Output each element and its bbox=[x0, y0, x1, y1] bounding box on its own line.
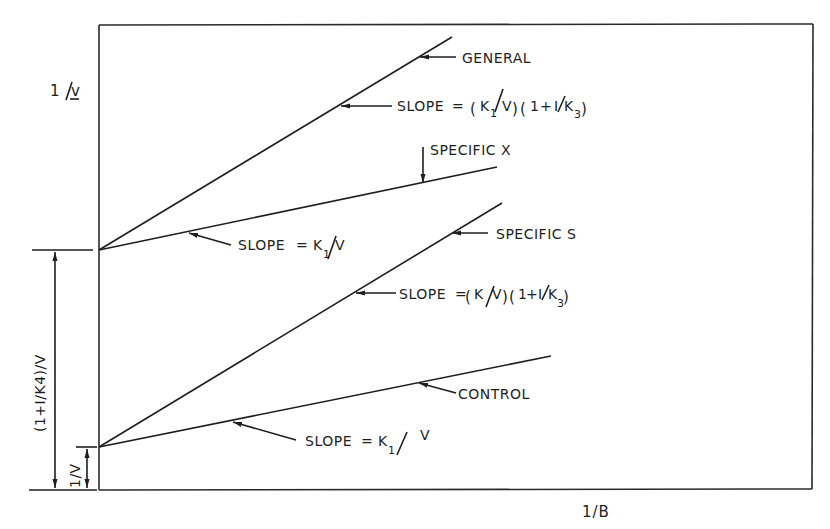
specific-x-slope-eq: = bbox=[296, 237, 308, 253]
label-control-slope: SLOPE = K 1 V bbox=[233, 422, 430, 457]
control-slope-k: K bbox=[378, 433, 388, 449]
lineweaver-burk-diagram: 1 v 1/B GENERAL SLOPE = ( K 1 V ) ( 1 + … bbox=[0, 0, 830, 529]
label-general-slope: SLOPE = ( K 1 V ) ( 1 + I K 3 ) bbox=[341, 89, 588, 121]
label-control-text: CONTROL bbox=[458, 386, 530, 402]
specific-x-slope-v: V bbox=[335, 237, 345, 253]
label-control: CONTROL bbox=[419, 383, 530, 402]
x-axis-label: 1/B bbox=[582, 503, 610, 521]
general-slope-one: 1 bbox=[530, 98, 539, 114]
general-slope-k3: K bbox=[564, 98, 574, 114]
control-slope-v: V bbox=[420, 427, 430, 443]
control-slope-slash bbox=[397, 432, 407, 455]
specific-s-slope-rparen2: ) bbox=[563, 288, 570, 306]
general-slope-lparen2: ( bbox=[520, 100, 527, 118]
label-specific-x: SPECIFIC X bbox=[423, 142, 511, 183]
control-slope-prefix: SLOPE bbox=[305, 433, 352, 449]
specific-s-slope-rparen1: ) bbox=[502, 288, 509, 306]
arrow-specific-x-slope bbox=[189, 233, 231, 245]
general-slope-rparen2: ) bbox=[581, 100, 588, 118]
lower-intercept-label: 1/V bbox=[67, 463, 83, 488]
general-slope-prefix: SLOPE bbox=[397, 98, 444, 114]
general-slope-v: V bbox=[502, 98, 512, 114]
specific-s-slope-v: V bbox=[492, 286, 502, 302]
upper-intercept-label: (1+I/K4)/V bbox=[32, 354, 48, 432]
general-slope-plus: + bbox=[540, 98, 552, 114]
control-slope-k1-sub: 1 bbox=[388, 444, 396, 457]
general-slope-eq: = bbox=[452, 98, 464, 114]
specific-s-slope-k: K bbox=[474, 286, 484, 302]
frame-right bbox=[812, 24, 813, 489]
x-axis-label-text: 1/B bbox=[582, 503, 610, 521]
label-general-text: GENERAL bbox=[462, 50, 531, 66]
label-specific-s-text: SPECIFIC S bbox=[496, 226, 576, 242]
label-specific-x-text: SPECIFIC X bbox=[430, 142, 511, 158]
general-slope-k: K bbox=[480, 98, 490, 114]
specific-x-slope-prefix: SLOPE bbox=[238, 237, 285, 253]
x-axis-line bbox=[99, 489, 812, 490]
specific-s-slope-plus: + bbox=[526, 286, 538, 302]
specific-s-slope-lparen1: ( bbox=[465, 288, 472, 306]
label-specific-s-slope: SLOPE = ( K V ) ( 1 + I K 3 ) bbox=[356, 285, 570, 310]
line-general bbox=[99, 37, 452, 250]
y-axis-label-v: v bbox=[71, 82, 81, 100]
label-specific-x-slope: SLOPE = K 1 V bbox=[189, 233, 345, 261]
frame-top bbox=[99, 24, 813, 25]
plot-frame bbox=[99, 24, 813, 490]
general-slope-rparen1: ) bbox=[512, 100, 519, 118]
label-specific-s: SPECIFIC S bbox=[452, 226, 576, 242]
control-slope-eq: = bbox=[361, 433, 373, 449]
y-axis-label: 1 v bbox=[50, 82, 81, 100]
specific-s-slope-lparen2: ( bbox=[509, 288, 516, 306]
specific-s-slope-prefix: SLOPE bbox=[399, 286, 446, 302]
specific-x-slope-k: K bbox=[313, 237, 323, 253]
general-slope-lparen1: ( bbox=[470, 100, 477, 118]
y-axis-label-one: 1 bbox=[50, 82, 61, 100]
intercept-dimensions: (1+I/K4)/V 1/V bbox=[29, 250, 97, 490]
label-general: GENERAL bbox=[420, 50, 531, 66]
arrow-control bbox=[419, 383, 456, 393]
arrow-control-slope bbox=[233, 422, 296, 440]
